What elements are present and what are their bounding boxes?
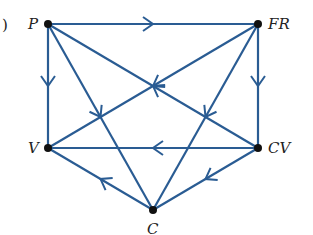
node-label-C: C [147, 220, 159, 235]
node-P [44, 20, 52, 28]
edges [41, 17, 265, 210]
node-label-FR: FR [267, 15, 290, 33]
figure-label: ) [2, 16, 8, 34]
nodes: PFRVCVC [27, 15, 292, 235]
node-V [44, 144, 52, 152]
node-CV [254, 144, 262, 152]
node-C [149, 206, 157, 214]
node-label-P: P [27, 15, 39, 33]
directed-graph: ) PFRVCVC [0, 0, 313, 235]
node-label-V: V [28, 139, 41, 157]
node-FR [254, 20, 262, 28]
node-label-CV: CV [268, 139, 292, 157]
